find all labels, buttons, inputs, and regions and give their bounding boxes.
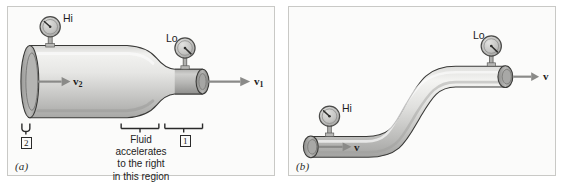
high-pressure-gauge-label: Hi bbox=[342, 102, 352, 114]
acceleration-note-line-3: to the right bbox=[96, 158, 186, 170]
velocity-label-v-outlet: v bbox=[543, 70, 549, 82]
velocity-subscript: 1 bbox=[260, 80, 264, 89]
acceleration-note-line-2: accelerates bbox=[96, 146, 186, 158]
pipe-small-bore bbox=[175, 69, 209, 94]
inlet-end-cap bbox=[303, 136, 318, 158]
acceleration-note-line-4: in this region bbox=[96, 171, 186, 183]
velocity-arrow-v1 bbox=[207, 77, 251, 86]
station-bracket-1 bbox=[165, 124, 203, 133]
velocity-label-v-inlet: v bbox=[354, 141, 360, 153]
velocity-subscript: 2 bbox=[79, 80, 83, 89]
station-marker-2: 2 bbox=[21, 137, 32, 149]
figure-root: Hi Lo v2 v1 2 1 Fluid accelerates to the… bbox=[0, 0, 563, 183]
velocity-symbol: v bbox=[354, 141, 360, 153]
acceleration-note-line-1: Fluid bbox=[96, 134, 186, 146]
acceleration-note: Fluid accelerates to the right in this r… bbox=[96, 134, 186, 183]
velocity-arrow-outlet bbox=[513, 72, 539, 81]
panel-b-caption: (b) bbox=[296, 160, 309, 172]
outlet-end-cap bbox=[498, 66, 513, 88]
low-pressure-gauge-label: Lo bbox=[473, 29, 485, 41]
pipe-body-s-bend bbox=[311, 66, 506, 157]
high-pressure-gauge bbox=[319, 106, 339, 136]
large-bore-end-cap bbox=[21, 46, 39, 118]
panel-a-caption: (a) bbox=[15, 160, 28, 172]
low-pressure-gauge-label: Lo bbox=[166, 32, 178, 44]
panel-b: Hi Lo v v (b) bbox=[288, 6, 556, 176]
velocity-symbol: v bbox=[73, 75, 79, 87]
velocity-symbol: v bbox=[254, 75, 260, 87]
velocity-label-v2: v2 bbox=[73, 75, 83, 87]
acceleration-region-bracket bbox=[121, 124, 159, 133]
high-pressure-gauge bbox=[40, 17, 60, 47]
station-bracket-2 bbox=[22, 124, 30, 135]
panel-b-diagram bbox=[289, 7, 555, 175]
panel-a: Hi Lo v2 v1 2 1 Fluid accelerates to the… bbox=[7, 6, 275, 176]
velocity-symbol: v bbox=[543, 70, 549, 82]
high-pressure-gauge-label: Hi bbox=[63, 12, 73, 24]
velocity-label-v1: v1 bbox=[254, 75, 264, 87]
